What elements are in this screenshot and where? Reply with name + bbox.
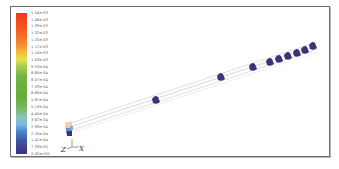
model-scene: Z X	[0, 0, 339, 169]
axis-z-label: Z	[60, 146, 66, 154]
inlet-section	[65, 121, 73, 136]
axis-x-label: X	[78, 145, 85, 153]
axis-triad: Z X	[60, 139, 85, 154]
